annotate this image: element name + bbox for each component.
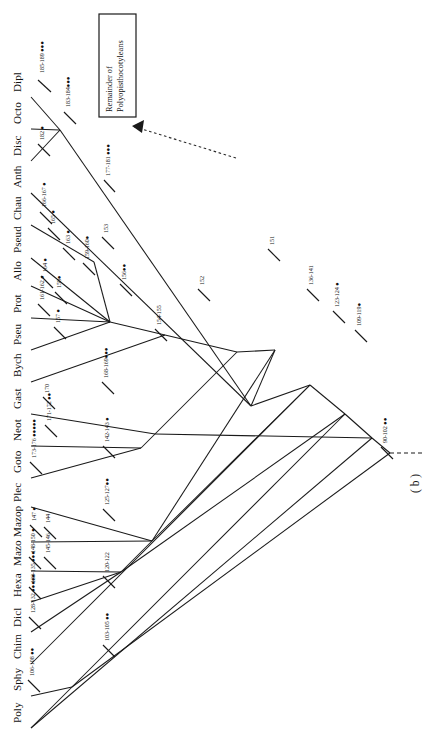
taxon-label-chim: Chim xyxy=(11,634,23,659)
taxon-label-group: Poly Sphy Chim Dicl Hexa Mazo Mazop Plec… xyxy=(11,72,23,723)
charlabel-152: 152 xyxy=(199,276,205,285)
taxon-label-dipl: Dipl xyxy=(11,72,23,92)
taxon-label-gast: Gast xyxy=(11,388,23,409)
charlabel-148-150: 148-150 ● xyxy=(30,528,36,553)
charlabel-157: 157 ● xyxy=(55,309,61,323)
charlabel-171-172: 171-172 ●● xyxy=(46,392,52,421)
charlabel-158: 158● xyxy=(56,275,62,288)
charlabel-159-160: 159-160● xyxy=(84,235,90,259)
charlabel-145-146: 145-146 xyxy=(45,533,51,553)
taxon-label-neot: Neot xyxy=(11,418,23,441)
charlabel-173-176: 173-176 ●●●●● xyxy=(31,419,37,458)
charlabel-128-132: 128-132 ●●●●● xyxy=(30,574,36,613)
charlabel-177-181: 177-181 ●●● xyxy=(105,144,111,176)
charlabel-183-184: 183-184●●● xyxy=(65,76,71,107)
annotation-line-1: Remainder of xyxy=(105,66,114,112)
taxon-label-mazop: Mazop xyxy=(11,506,23,537)
charlabel-163: 163 ● xyxy=(65,230,71,244)
charlabel-182: 182 ● xyxy=(39,126,45,140)
charlabel-161-162: 161-162 ● xyxy=(39,275,45,300)
charlabel-170: 170 xyxy=(44,384,50,393)
charlabel-120-122: 120-122 xyxy=(104,552,110,572)
charlabel-165: 165 ● xyxy=(50,210,56,224)
charlabel-156: 156●● xyxy=(121,264,127,280)
taxon-label-bych: Bych xyxy=(11,353,23,377)
taxon-label-anth: Anth xyxy=(11,165,23,188)
charlabel-109-119: 109-119● xyxy=(356,303,362,326)
charlabel-168-169: 168-169●●● xyxy=(103,347,109,378)
charlabel-106-108: 106-108 ●● xyxy=(29,647,35,676)
charlabel-154-155: 154-155 xyxy=(156,305,162,325)
taxon-label-hexa: Hexa xyxy=(11,573,23,597)
taxon-label-dicl: Dicl xyxy=(11,608,23,627)
charlabel-103-105: 103-105 ●● xyxy=(104,612,110,641)
charlabel-153: 153 xyxy=(103,224,109,233)
taxon-label-pseud: Pseud xyxy=(11,226,23,253)
charlabel-136-141: 136-141 xyxy=(308,265,314,285)
cladogram-svg: Poly Sphy Chim Dicl Hexa Mazo Mazop Plec… xyxy=(0,0,436,753)
charlabel-147: 147 ● xyxy=(31,507,37,521)
taxon-label-poly: Poly xyxy=(11,702,23,723)
taxon-label-octo: Octo xyxy=(11,102,23,124)
charlabel-151: 151 xyxy=(269,236,275,245)
taxon-label-chau: Chau xyxy=(11,196,23,220)
charlabel-166-167: 166-167 ● xyxy=(41,182,47,207)
annotation-line-2: Polyopisthocotyleans xyxy=(116,40,125,112)
charlabel-144: 144 xyxy=(45,514,51,523)
taxon-label-goto: Goto xyxy=(11,450,23,473)
charlabel-125-127: 125-127●● xyxy=(104,478,110,505)
cladogram-figure: Poly Sphy Chim Dicl Hexa Mazo Mazop Plec… xyxy=(0,0,436,753)
panel-label: ( b ) xyxy=(409,474,422,493)
charlabel-90-102: 90-102 ●● xyxy=(382,417,388,443)
taxon-label-plec: Plec xyxy=(11,483,23,502)
taxon-label-pseu: Pseu xyxy=(11,323,23,345)
charlabel-164: 164 ● xyxy=(42,258,48,272)
taxon-label-allo: Allo xyxy=(11,261,23,281)
taxon-label-mazo: Mazo xyxy=(11,540,23,566)
taxon-label-prot: Prot xyxy=(11,293,23,313)
charlabel-142-143: 142-143 ● xyxy=(104,417,110,442)
taxon-label-disc: Disc xyxy=(11,135,23,156)
charlabel-185-189: 185-189 ●●● xyxy=(39,41,45,73)
charlabel-123-124: 123-124 ● xyxy=(334,282,340,307)
taxon-label-sphy: Sphy xyxy=(11,668,23,691)
